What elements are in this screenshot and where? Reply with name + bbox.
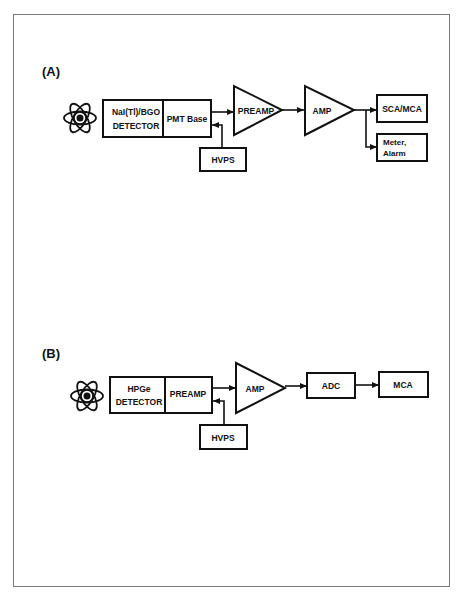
hpge-detector-box — [110, 377, 168, 413]
detector-label-line1: NaI(Tl)/BGO — [112, 107, 161, 117]
amp-label: AMP — [246, 384, 265, 394]
atom-icon — [64, 101, 96, 135]
diagram-a: (A) NaI(Tl)/BGO DETECTOR PMT Base HVPS P… — [42, 64, 427, 171]
diagram-a-label: (A) — [42, 64, 60, 79]
meter-label-line2: Alarm — [383, 149, 406, 158]
pmt-base-label: PMT Base — [167, 114, 208, 124]
detector-box — [103, 100, 169, 137]
hpge-label-line1: HPGe — [127, 384, 150, 394]
block-diagrams: (A) NaI(Tl)/BGO DETECTOR PMT Base HVPS P… — [0, 0, 462, 600]
adc-label: ADC — [322, 381, 340, 391]
diagram-b-label: (B) — [42, 346, 60, 361]
preamp-label: PREAMP — [238, 106, 275, 116]
mca-label: MCA — [393, 380, 412, 390]
amp-label: AMP — [313, 106, 332, 116]
sca-mca-label: SCA/MCA — [382, 104, 422, 114]
hvps-label: HVPS — [211, 433, 234, 443]
detector-label-line2: DETECTOR — [113, 121, 160, 131]
diagram-b: (B) HPGe DETECTOR PREAMP HVPS AMP ADC MC… — [42, 346, 428, 449]
atom-icon — [71, 379, 103, 413]
hvps-label: HVPS — [211, 155, 234, 165]
hpge-label-line2: DETECTOR — [116, 397, 163, 407]
meter-label-line1: Meter, — [383, 138, 406, 147]
preamp-label: PREAMP — [170, 389, 207, 399]
